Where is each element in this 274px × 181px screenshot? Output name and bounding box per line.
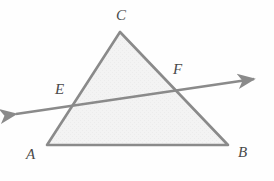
triangle-ABC (47, 32, 228, 145)
vertex-label-F: F (173, 62, 182, 77)
vertex-label-C: C (116, 8, 126, 23)
vertex-label-A: A (26, 147, 35, 162)
vertex-label-B: B (238, 145, 247, 160)
vertex-label-E: E (55, 82, 64, 97)
figure-canvas (0, 0, 274, 181)
geometry-figure: C E F A B (0, 0, 274, 181)
